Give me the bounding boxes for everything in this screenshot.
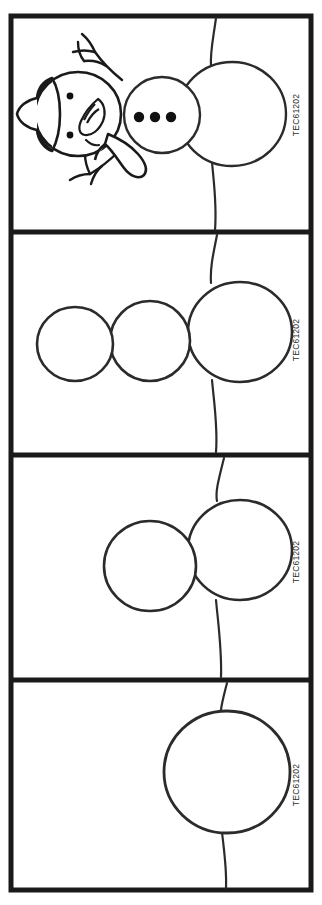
- panel-2-circle-small: [37, 307, 113, 381]
- panel-2-circle-middle: [110, 301, 190, 381]
- panel-1-coal-buttons: [134, 112, 176, 122]
- eye-2: [67, 132, 74, 139]
- panel-2-circle-large: [188, 282, 292, 382]
- coal-button-1: [134, 112, 144, 122]
- worksheet-canvas: TEC61202 TEC61202 TEC61202 TEC61202: [0, 0, 322, 905]
- panel-4-circle-large: [164, 711, 290, 833]
- worksheet-sheet: TEC61202 TEC61202 TEC61202 TEC61202: [0, 0, 322, 905]
- eye-1: [67, 93, 74, 100]
- coal-button-3: [166, 112, 176, 122]
- panel-4-code: TEC61202: [291, 764, 301, 806]
- panel-1-code: TEC61202: [291, 94, 301, 136]
- panel-3-circle-middle: [104, 521, 196, 611]
- panel-3-code: TEC61202: [291, 541, 301, 583]
- panel-2-code: TEC61202: [291, 319, 301, 361]
- coal-button-2: [150, 112, 160, 122]
- panel-3-circle-large: [188, 500, 292, 600]
